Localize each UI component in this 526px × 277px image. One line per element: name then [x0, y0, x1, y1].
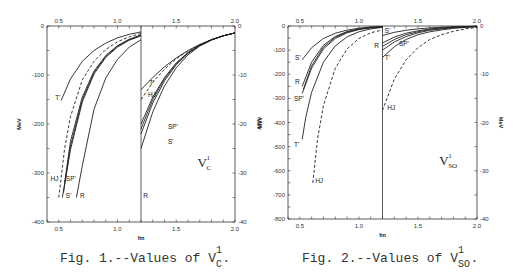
- x-tick-label-bottom: 0.5: [55, 226, 64, 232]
- series-T-left: [302, 27, 382, 139]
- curve-label: HJ: [51, 175, 59, 182]
- y-tick-label-left: -100: [273, 47, 286, 53]
- x-tick-label-top: 1.5: [172, 18, 181, 24]
- y-tick-label-right: -20: [480, 120, 489, 126]
- panel-label-sup: 1: [448, 152, 452, 160]
- y-tick-label-right: -40: [238, 219, 247, 225]
- curve-label: S': [295, 54, 301, 61]
- x-tick-label-top: 1.0: [355, 18, 364, 24]
- curve-label: HJ: [387, 104, 395, 111]
- y-tick-label-left: -400: [273, 120, 286, 126]
- x-tick-label-bottom: 0.5: [296, 223, 305, 229]
- x-tick-label-bottom: 1.5: [414, 223, 423, 229]
- curve-label: HJ: [148, 91, 156, 98]
- curve-label: SP': [294, 95, 304, 102]
- series-S-left: [302, 27, 382, 60]
- x-tick-label-top: 1.0: [113, 18, 122, 24]
- series-R-left: [76, 40, 141, 198]
- figure-caption: Fig. 2.--Values of V: [302, 251, 458, 266]
- series-T-right: [383, 27, 478, 58]
- x-tick-label-top: 0.5: [55, 18, 64, 24]
- y-axis-label-right: MeV: [498, 117, 504, 129]
- figure-canvas: 0.50.51.01.01.51.52.02.0fm0-100-200-300-…: [0, 0, 526, 277]
- curve-label: S': [66, 192, 72, 199]
- series-R-b-left: [303, 27, 382, 89]
- y-axis-label-left: MeV: [16, 118, 22, 130]
- y-tick-label-right: -10: [238, 72, 247, 78]
- x-tick-label-top: 1.5: [414, 18, 423, 24]
- y-tick-label-left: -700: [273, 192, 286, 198]
- series-HJ-right: [141, 33, 235, 100]
- curve-label: T': [385, 54, 390, 61]
- series-S-left: [62, 36, 141, 198]
- chart-fig1: 0.50.51.01.01.51.52.02.0fm0-100-200-300-…: [16, 18, 262, 270]
- y-tick-label-left: -200: [273, 71, 286, 77]
- panel-label-sup: 1: [206, 154, 210, 162]
- y-tick-label-left: -400: [32, 219, 45, 225]
- y-tick-label-left: -300: [273, 95, 286, 101]
- series-SP-b-right: [141, 33, 235, 129]
- x-tick-label-bottom: 1.0: [355, 223, 364, 229]
- x-tick-label-bottom: 1.0: [113, 226, 122, 232]
- curve-label: SP': [168, 123, 178, 130]
- curve-label: T': [55, 94, 60, 101]
- series-SP-left: [302, 27, 382, 94]
- series-HJ-right: [383, 27, 478, 110]
- panel-label-sub: SO: [448, 162, 457, 170]
- figure-caption-sub: SO: [458, 259, 470, 270]
- curve-label: R: [295, 78, 300, 85]
- series-T-right: [141, 33, 235, 90]
- y-tick-label-right: -40: [480, 216, 489, 222]
- y-axis-label-left: MeV: [257, 117, 263, 129]
- curve-label: R: [143, 192, 148, 199]
- curve-label: R: [374, 42, 379, 49]
- y-tick-label-left: 0: [282, 23, 286, 29]
- figure-caption-sup: 1: [458, 245, 464, 256]
- y-tick-label-left: -300: [32, 170, 45, 176]
- series-SP-right: [141, 33, 235, 124]
- curve-label: SP': [66, 175, 76, 182]
- figure-caption-end: .: [222, 251, 230, 266]
- curve-label: T': [149, 79, 154, 86]
- curve-label: S': [385, 27, 391, 34]
- series-SP-b-left: [64, 35, 142, 192]
- curve-label: S': [168, 138, 174, 145]
- y-tick-label-left: -200: [32, 121, 45, 127]
- y-tick-label-left: -600: [273, 168, 286, 174]
- figure-caption: Fig. 1.--Values of V: [60, 251, 216, 266]
- curve-label: T': [294, 141, 299, 148]
- x-tick-label-bottom: 2.0: [473, 223, 482, 229]
- y-tick-label-right: -30: [238, 170, 247, 176]
- series-SP-left: [65, 35, 141, 183]
- curve-label: R: [80, 192, 85, 199]
- y-tick-label-left: -500: [273, 144, 286, 150]
- x-tick-label-bottom: 2.0: [231, 226, 240, 232]
- curve-label: SP': [399, 40, 409, 47]
- series-HJ-left: [59, 33, 141, 197]
- y-tick-label-left: -100: [32, 72, 45, 78]
- y-tick-label-right: 0: [480, 23, 484, 29]
- figure-caption-sup: 1: [216, 245, 222, 256]
- x-tick-label-bottom: 1.5: [172, 226, 181, 232]
- y-tick-label-left: 0: [41, 23, 45, 29]
- panel-label-sub: C: [206, 164, 211, 172]
- y-tick-label-right: -30: [480, 168, 489, 174]
- curve-label: HJ: [315, 177, 323, 184]
- figure-caption-sub: C: [216, 259, 222, 270]
- y-tick-label-left: -800: [273, 216, 286, 222]
- figure-caption-end: .: [470, 251, 478, 266]
- x-axis-label: fm: [379, 232, 386, 238]
- y-tick-label-right: 0: [238, 23, 242, 29]
- x-axis-label: fm: [138, 235, 145, 241]
- x-tick-label-top: 0.5: [296, 18, 305, 24]
- y-tick-label-right: -10: [480, 71, 489, 77]
- series-S-right: [141, 33, 235, 134]
- chart-fig2: 0.50.51.01.01.51.52.02.0fm0-100-200-300-…: [257, 18, 504, 270]
- y-tick-label-right: -20: [238, 121, 247, 127]
- series-HJ-left: [313, 30, 383, 183]
